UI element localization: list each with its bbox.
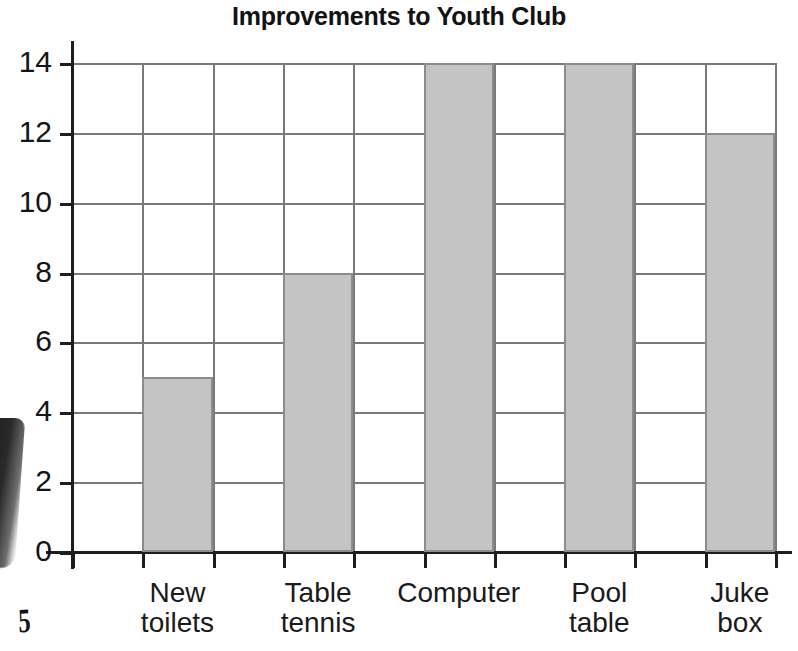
x-category-label: Jukebox	[666, 578, 798, 638]
x-axis-tick	[353, 551, 356, 568]
grid-line-vertical	[213, 63, 215, 552]
y-tick-label: 14	[0, 47, 52, 77]
y-axis-tick	[60, 412, 73, 415]
x-category-label: Computer	[385, 578, 533, 608]
x-axis-tick	[213, 551, 216, 568]
bar	[283, 273, 353, 552]
grid-line-vertical	[494, 63, 496, 552]
x-category-label: Pooltable	[525, 578, 673, 638]
x-axis-tick	[142, 551, 145, 568]
x-axis-tick	[424, 551, 427, 568]
category-label-line: box	[666, 608, 798, 638]
x-axis-tick	[705, 551, 708, 568]
category-label-line: Table	[285, 577, 352, 608]
y-axis-tick	[60, 482, 73, 485]
x-axis-tick	[494, 551, 497, 568]
category-label-line: tennis	[244, 608, 392, 638]
category-label-line: New	[149, 577, 205, 608]
x-axis-tick	[775, 551, 778, 568]
x-axis-tick	[634, 551, 637, 568]
y-axis-tick	[60, 273, 73, 276]
y-tick-label: 12	[0, 117, 52, 147]
category-label-line: Pool	[571, 577, 627, 608]
y-tick-label: 6	[0, 326, 52, 356]
bar	[142, 377, 212, 552]
bar	[564, 63, 634, 552]
y-axis-tick	[60, 133, 73, 136]
page-margin-glyph: 5	[18, 604, 32, 639]
y-tick-label: 8	[0, 257, 52, 287]
category-label-line: table	[525, 608, 673, 638]
x-category-label: Tabletennis	[244, 578, 392, 638]
bar	[424, 63, 494, 552]
y-axis-tick	[60, 203, 73, 206]
category-label-line: toilets	[104, 608, 252, 638]
y-tick-label: 0	[0, 536, 52, 566]
y-axis-tick	[60, 63, 73, 66]
x-axis-tick	[283, 551, 286, 568]
bar	[705, 133, 775, 552]
x-axis-tick	[564, 551, 567, 568]
category-label-line: Computer	[397, 577, 520, 608]
grid-line-vertical	[634, 63, 636, 552]
y-tick-label: 4	[0, 396, 52, 426]
chart-title: Improvements to Youth Club	[0, 2, 798, 31]
y-axis-line	[71, 41, 74, 569]
y-tick-label: 2	[0, 466, 52, 496]
grid-line-vertical	[775, 63, 777, 552]
y-axis-tick	[60, 342, 73, 345]
category-label-line: Juke	[710, 577, 769, 608]
x-axis-tick	[72, 551, 75, 568]
grid-line-vertical	[353, 63, 355, 552]
x-category-label: Newtoilets	[104, 578, 252, 638]
y-tick-label: 10	[0, 187, 52, 217]
